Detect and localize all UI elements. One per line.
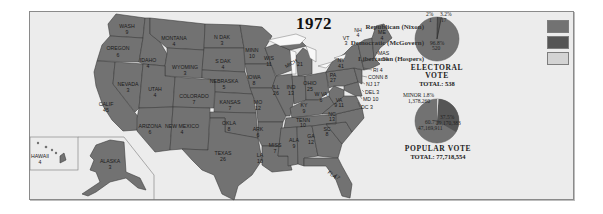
svg-text:11: 11 bbox=[266, 61, 271, 67]
svg-text:4: 4 bbox=[39, 159, 42, 165]
svg-text:5: 5 bbox=[223, 84, 226, 90]
swatch-libertarian bbox=[547, 52, 569, 65]
svg-text:6: 6 bbox=[149, 129, 152, 135]
swatch-democratic bbox=[547, 36, 569, 49]
svg-text:17: 17 bbox=[441, 17, 447, 23]
svg-text:3: 3 bbox=[127, 87, 130, 93]
svg-text:12: 12 bbox=[308, 139, 314, 145]
svg-text:27: 27 bbox=[330, 77, 336, 83]
label-dc: DC 3 bbox=[361, 104, 373, 110]
popular-vote-caption: POPULAR VOTE TOTAL: 77,718,554 bbox=[398, 145, 478, 161]
svg-text:4: 4 bbox=[357, 32, 360, 38]
svg-text:9: 9 bbox=[293, 143, 296, 149]
svg-text:13: 13 bbox=[288, 90, 294, 96]
svg-text:10: 10 bbox=[249, 53, 255, 59]
state-alaska[interactable] bbox=[82, 140, 146, 196]
svg-text:9 11: 9 11 bbox=[334, 102, 344, 108]
svg-text:520: 520 bbox=[432, 45, 441, 51]
svg-text:1,378,260: 1,378,260 bbox=[408, 98, 430, 104]
svg-text:4: 4 bbox=[222, 64, 225, 70]
svg-text:8: 8 bbox=[326, 131, 329, 137]
svg-text:1: 1 bbox=[429, 17, 432, 23]
inset-panels bbox=[30, 137, 154, 200]
svg-text:6: 6 bbox=[117, 52, 120, 58]
svg-text:26: 26 bbox=[273, 90, 279, 96]
map-title: 1972 bbox=[296, 14, 332, 34]
svg-text:4: 4 bbox=[154, 92, 157, 98]
popular-vote-pie: MINOR 1.8% 1,378,260 37.5% 29,170,383 60… bbox=[403, 92, 461, 143]
label-conn: CONN 8 bbox=[368, 74, 388, 80]
svg-text:4: 4 bbox=[181, 129, 184, 135]
svg-text:7: 7 bbox=[229, 105, 232, 111]
svg-text:21: 21 bbox=[297, 61, 303, 67]
svg-text:10: 10 bbox=[300, 122, 306, 128]
svg-text:8: 8 bbox=[253, 80, 256, 86]
svg-text:3: 3 bbox=[184, 70, 187, 76]
svg-text:7: 7 bbox=[274, 148, 277, 154]
label-del: DEL 3 bbox=[365, 89, 379, 95]
svg-text:9: 9 bbox=[303, 108, 306, 114]
label-nj: NJ 17 bbox=[366, 81, 380, 87]
svg-text:13: 13 bbox=[329, 116, 335, 122]
svg-text:7: 7 bbox=[193, 99, 196, 105]
svg-text:6: 6 bbox=[257, 132, 260, 138]
svg-text:6: 6 bbox=[320, 97, 323, 103]
state-florida[interactable] bbox=[304, 158, 352, 198]
swatch-republican bbox=[547, 20, 569, 33]
svg-text:25: 25 bbox=[307, 86, 313, 92]
svg-text:8: 8 bbox=[228, 126, 231, 132]
electoral-vote-pie: 2% 1 3.2% 17 96.8% 520 bbox=[415, 11, 459, 61]
svg-text:4: 4 bbox=[147, 63, 150, 69]
state-arizona[interactable] bbox=[137, 107, 173, 152]
svg-text:9: 9 bbox=[126, 29, 129, 35]
svg-text:41: 41 bbox=[338, 63, 344, 69]
svg-text:3: 3 bbox=[109, 164, 112, 170]
svg-text:3: 3 bbox=[345, 40, 348, 46]
label-md: MD 10 bbox=[363, 96, 378, 102]
svg-text:4: 4 bbox=[173, 41, 176, 47]
svg-text:26: 26 bbox=[220, 156, 226, 162]
svg-text:12: 12 bbox=[255, 105, 261, 111]
svg-text:3: 3 bbox=[221, 40, 224, 46]
svg-text:45: 45 bbox=[103, 107, 109, 113]
electoral-vote-caption: ELECTORAL VOTE TOTAL: 538 bbox=[402, 64, 472, 88]
svg-text:47,169,911: 47,169,911 bbox=[418, 125, 443, 131]
label-ri: RI 4 bbox=[373, 67, 383, 73]
svg-text:10: 10 bbox=[257, 158, 263, 164]
label-oregon: OREGON bbox=[106, 45, 129, 51]
